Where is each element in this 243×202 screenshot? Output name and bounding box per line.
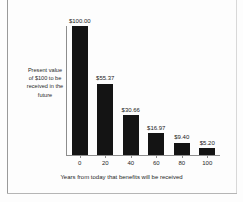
x-tick-label: 40 — [127, 159, 134, 167]
bar — [72, 26, 88, 155]
bar-series: $100.00$55.37$30.66$16.97$9.40$5.20 — [67, 26, 220, 155]
x-tick-mark — [207, 155, 208, 158]
x-tick-label: 20 — [102, 159, 109, 167]
x-axis-ticks: 020406080100 — [66, 155, 220, 171]
y-axis-label-line-1: Present value — [17, 66, 73, 74]
y-axis-label-line-2: of $100 to be — [17, 74, 73, 82]
figure-border-left — [7, 0, 8, 194]
x-tick-mark — [131, 155, 132, 158]
bar — [123, 115, 139, 155]
bar-column: $16.97 — [148, 26, 164, 155]
x-tick-label: 60 — [153, 159, 160, 167]
y-axis-label-line-4: future — [17, 91, 73, 99]
bar — [148, 133, 164, 155]
bar-column: $9.40 — [174, 26, 190, 155]
bar — [199, 148, 215, 155]
x-tick-mark — [105, 155, 106, 158]
x-axis-title: Years from today that benefits will be r… — [7, 174, 236, 180]
bar-value-label: $9.40 — [174, 134, 189, 141]
y-axis-label-line-3: received in the — [17, 82, 73, 90]
x-tick-mark — [80, 155, 81, 158]
x-tick-label: 0 — [78, 159, 81, 167]
x-tick-mark — [182, 155, 183, 158]
bar-column: $5.20 — [199, 26, 215, 155]
bar — [97, 84, 113, 155]
x-tick-label: 80 — [178, 159, 185, 167]
y-axis-label: Present value of $100 to be received in … — [17, 66, 73, 99]
bar-value-label: $30.66 — [122, 107, 140, 114]
bar-value-label: $16.97 — [147, 125, 165, 132]
bar-column: $100.00 — [72, 26, 88, 155]
bar-column: $30.66 — [123, 26, 139, 155]
bar-value-label: $5.20 — [200, 140, 215, 147]
x-tick-label: 100 — [202, 159, 212, 167]
figure-border-bottom — [7, 193, 237, 194]
plot-area: $100.00$55.37$30.66$16.97$9.40$5.20 — [66, 26, 220, 155]
bar-column: $55.37 — [97, 26, 113, 155]
bar-value-label: $100.00 — [69, 18, 91, 25]
bar — [174, 143, 190, 155]
figure-border-right — [236, 0, 237, 194]
x-tick-mark — [156, 155, 157, 158]
chart-figure: Present value of $100 to be received in … — [0, 0, 243, 202]
bar-value-label: $55.37 — [96, 75, 114, 82]
